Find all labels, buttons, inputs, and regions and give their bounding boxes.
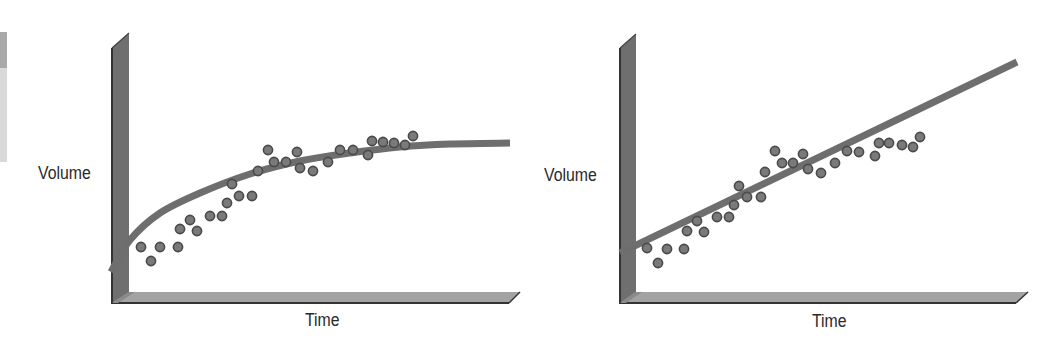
data-point bbox=[367, 136, 376, 145]
data-point bbox=[816, 168, 825, 177]
data-point bbox=[830, 158, 839, 167]
right-x-axis-label: Time bbox=[812, 311, 847, 332]
data-point bbox=[253, 166, 262, 175]
data-point bbox=[227, 179, 236, 188]
data-point bbox=[734, 181, 743, 190]
data-point bbox=[915, 132, 924, 141]
data-point bbox=[897, 140, 906, 149]
data-point bbox=[884, 138, 893, 147]
left-y-axis-label: Volume bbox=[38, 163, 91, 184]
data-point bbox=[323, 157, 332, 166]
right-fit-line bbox=[620, 62, 1017, 253]
data-point bbox=[729, 200, 738, 209]
data-point bbox=[389, 138, 398, 147]
data-point bbox=[192, 226, 201, 235]
chart-canvas bbox=[0, 0, 1049, 350]
data-point bbox=[770, 146, 779, 155]
data-point bbox=[699, 227, 708, 236]
data-point bbox=[378, 137, 387, 146]
data-point bbox=[854, 147, 863, 156]
data-point bbox=[292, 147, 301, 156]
data-point bbox=[308, 166, 317, 175]
left-x-axis-label: Time bbox=[305, 310, 340, 331]
data-point bbox=[682, 226, 691, 235]
data-point bbox=[653, 258, 662, 267]
data-point bbox=[185, 215, 194, 224]
data-point bbox=[712, 212, 721, 221]
data-point bbox=[842, 146, 851, 155]
right-floor-plane bbox=[619, 292, 1028, 303]
right-data-points bbox=[642, 132, 924, 267]
data-point bbox=[335, 145, 344, 154]
data-point bbox=[234, 191, 243, 200]
data-point bbox=[803, 164, 812, 173]
data-point bbox=[788, 158, 797, 167]
data-point bbox=[798, 149, 807, 158]
data-point bbox=[870, 151, 879, 160]
data-point bbox=[642, 243, 651, 252]
right-chart bbox=[619, 34, 1028, 303]
data-point bbox=[679, 244, 688, 253]
data-point bbox=[175, 224, 184, 233]
right-y-axis-label: Volume bbox=[544, 165, 597, 186]
data-point bbox=[155, 242, 164, 251]
left-floor-plane bbox=[111, 292, 520, 303]
data-point bbox=[777, 158, 786, 167]
data-point bbox=[217, 211, 226, 220]
data-point bbox=[408, 131, 417, 140]
data-point bbox=[136, 242, 145, 251]
data-point bbox=[281, 157, 290, 166]
data-point bbox=[222, 198, 231, 207]
data-point bbox=[742, 192, 751, 201]
right-wall bbox=[620, 34, 636, 303]
data-point bbox=[247, 191, 256, 200]
data-point bbox=[269, 157, 278, 166]
data-point bbox=[295, 163, 304, 172]
data-point bbox=[173, 242, 182, 251]
data-point bbox=[692, 216, 701, 225]
data-point bbox=[205, 211, 214, 220]
data-point bbox=[400, 140, 409, 149]
data-point bbox=[760, 167, 769, 176]
data-point bbox=[363, 150, 372, 159]
data-point bbox=[724, 212, 733, 221]
data-point bbox=[908, 142, 917, 151]
data-point bbox=[146, 256, 155, 265]
left-fit-curve bbox=[111, 143, 510, 272]
data-point bbox=[756, 192, 765, 201]
data-point bbox=[874, 138, 883, 147]
data-point bbox=[263, 145, 272, 154]
data-point bbox=[662, 244, 671, 253]
data-point bbox=[348, 145, 357, 154]
